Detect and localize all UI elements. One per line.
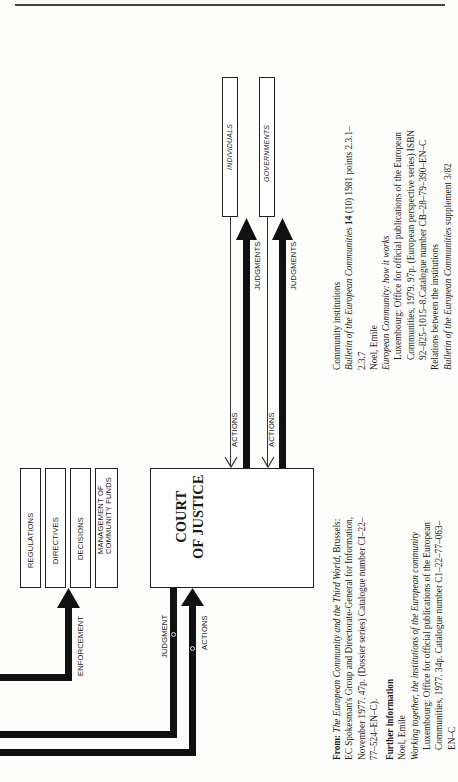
entry-4-citation: Bulletin of the European Communities sup…: [442, 0, 454, 370]
management-funds-box: MANAGEMENT OF COMMUNITY FUNDS: [95, 468, 118, 588]
arrow-head-up-icon: [272, 218, 293, 240]
source-place: , Brussels:: [332, 519, 342, 558]
judgments-arrow-individuals: [243, 238, 250, 468]
directives-label: DIRECTIVES: [51, 517, 60, 564]
management-label-line2: COMMUNITY FUNDS: [104, 477, 113, 554]
arrow-head-down-icon: [224, 455, 238, 469]
enforcement-label: ENFORCEMENT: [76, 616, 85, 676]
further-info-column-2: Community institutions Bulletin of the E…: [331, 0, 454, 370]
judgments-arrow-governments: [279, 238, 286, 468]
entry-2-points: (10) 1981 points 2.3.1–: [344, 126, 354, 215]
entry-2-cont: 2.3.7: [356, 0, 368, 370]
entry-3-author: Noel, Emile: [368, 0, 380, 370]
connector-dot: [171, 632, 176, 637]
source-citation: From: The European Community and the Thi…: [331, 390, 458, 760]
directives-box: DIRECTIVES: [45, 468, 66, 588]
judgments-label-governments: JUDGMENTS: [289, 242, 298, 290]
entry-1-line-1: Luxembourg: Office for official publicat…: [421, 390, 433, 760]
arrow-head-up-icon: [57, 588, 80, 608]
regulations-label: REGULATIONS: [26, 513, 35, 568]
judgment-line-vertical: [170, 588, 177, 738]
entry-1-line-3: EN–C: [446, 390, 458, 760]
entry-3-line-3: 92–825–1015–8.Catalogue number CB–28–79–…: [417, 0, 429, 370]
from-label: From:: [332, 735, 342, 760]
court-label-line1: COURT: [173, 491, 189, 543]
entry-4-journal: Bulletin of the European Communities: [443, 227, 453, 370]
actions-label-governments: ACTIONS: [267, 412, 276, 447]
arrow-head-down-icon: [261, 455, 275, 469]
actions-label-bottom: ACTIONS: [200, 615, 209, 650]
management-funds-label: MANAGEMENT OF COMMUNITY FUNDS: [97, 477, 113, 554]
enforcement-arrow-horizontal: [0, 674, 72, 681]
actions-arrow-horizontal: [0, 749, 196, 756]
judgment-line-horizontal: [0, 731, 177, 738]
source-line-3: November 1977. 47p. (Dossier series) Cat…: [356, 390, 368, 760]
actions-label-individuals: ACTIONS: [230, 412, 239, 447]
decisions-label: DECISIONS: [76, 517, 85, 560]
source-title: The European Community and the Third Wor…: [332, 557, 342, 732]
judgments-label-individuals: JUDGMENTS: [253, 242, 262, 290]
entry-1-author: Noel, Emile: [396, 390, 408, 760]
decisions-box: DECISIONS: [70, 468, 91, 588]
entry-3-line-2: Communities, 1979. 97p. (European perspe…: [405, 0, 417, 370]
governments-label: GOVERNMENTS: [263, 125, 270, 182]
entry-4-subject: Relations between the institutions: [429, 0, 441, 370]
governments-box: GOVERNMENTS: [259, 77, 275, 217]
connector-dot: [190, 646, 195, 651]
further-info-heading-text: Further information: [385, 679, 395, 760]
further-info-heading: Further information: [384, 390, 396, 760]
entry-2-journal: Bulletin of the European Communities: [344, 227, 354, 370]
entry-1-line-2: Communities, 1977. 34p. Catalogue number…: [433, 390, 445, 760]
entry-4-supplement: supplement 3/82: [443, 163, 453, 227]
arrow-head-up-icon: [236, 218, 257, 240]
judgment-label: JUDGMENT: [160, 615, 169, 658]
entry-1-title: Working together, the institutions of th…: [409, 390, 421, 760]
arrow-head-up-icon: [181, 588, 204, 606]
entry-3-line-1: Luxembourg: Office for official publicat…: [392, 0, 404, 370]
court-of-justice-box: COURT OF JUSTICE: [150, 468, 314, 588]
source-line-2: EC Spokesman's Group and Directorate-Gen…: [343, 390, 355, 760]
enforcement-arrow-vertical: [65, 605, 72, 681]
actions-arrow-vertical: [189, 604, 196, 756]
entry-2-subject: Community institutions: [331, 0, 343, 370]
court-of-justice-label: COURT OF JUSTICE: [173, 475, 207, 559]
entry-2-citation: Bulletin of the European Communities 14 …: [343, 0, 355, 370]
individuals-box: INDIVIDUALS: [222, 77, 238, 217]
regulations-box: REGULATIONS: [20, 468, 41, 588]
entry-3-title: European Community: how it works: [380, 0, 392, 370]
source-line-1: From: The European Community and the Thi…: [331, 390, 343, 760]
source-line-4: 77–524–EN–C).: [368, 390, 380, 760]
entry-2-volume: 14: [344, 216, 354, 225]
individuals-label: INDIVIDUALS: [226, 124, 233, 170]
court-label-line2: OF JUSTICE: [190, 475, 206, 559]
